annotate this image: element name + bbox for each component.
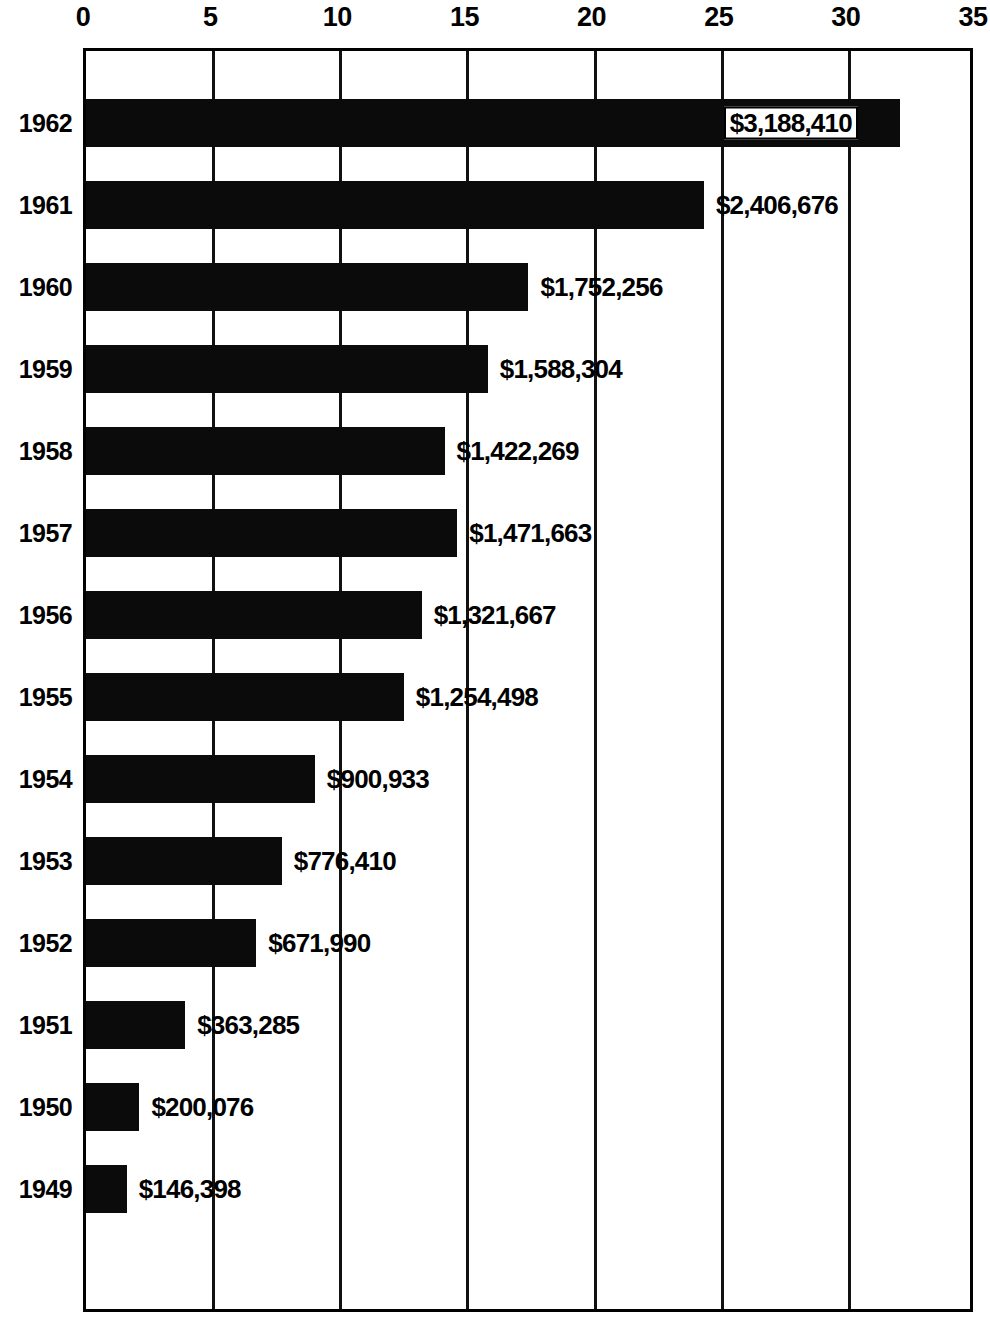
x-tick-label: 15 [450, 4, 479, 31]
year-label-1952: 1952 [19, 931, 72, 956]
x-tick-label: 10 [323, 4, 352, 31]
bar-row: $1,422,269 [86, 427, 970, 475]
bar [86, 181, 704, 229]
x-tick-label: 30 [831, 4, 860, 31]
bar-row: $363,285 [86, 1001, 970, 1049]
bar [86, 837, 282, 885]
x-tick-label: 20 [577, 4, 606, 31]
year-label-1954: 1954 [19, 767, 72, 792]
bar-row: $1,471,663 [86, 509, 970, 557]
bar-value-label: $671,990 [256, 930, 370, 956]
year-label-1955: 1955 [19, 685, 72, 710]
year-label-1958: 1958 [19, 439, 72, 464]
bar-value-label: $1,254,498 [404, 684, 538, 710]
year-label-1962: 1962 [19, 111, 72, 136]
bar [86, 919, 256, 967]
year-label-1960: 1960 [19, 275, 72, 300]
year-label-1959: 1959 [19, 357, 72, 382]
bar-value-label: $1,471,663 [457, 520, 591, 546]
bar [86, 1001, 185, 1049]
bar-value-label: $146,398 [127, 1176, 241, 1202]
bar-row: $2,406,676 [86, 181, 970, 229]
bar [86, 345, 488, 393]
bar [86, 1083, 139, 1131]
bar-value-label: $3,188,410 [724, 107, 858, 140]
bar-row: $3,188,410 [86, 99, 970, 147]
bar-value-label: $2,406,676 [704, 192, 838, 218]
bar [86, 509, 457, 557]
year-label-1961: 1961 [19, 193, 72, 218]
bar-value-label: $1,752,256 [528, 274, 662, 300]
bar [86, 427, 445, 475]
bar [86, 1165, 127, 1213]
year-label-1950: 1950 [19, 1095, 72, 1120]
bar-row: $1,321,667 [86, 591, 970, 639]
bar [86, 591, 422, 639]
bar-row: $1,752,256 [86, 263, 970, 311]
year-label-1951: 1951 [19, 1013, 72, 1038]
bar-value-label: $1,588,304 [488, 356, 622, 382]
bar-row: $776,410 [86, 837, 970, 885]
year-label-1953: 1953 [19, 849, 72, 874]
bar [86, 263, 528, 311]
year-label-1957: 1957 [19, 521, 72, 546]
bar-row: $1,588,304 [86, 345, 970, 393]
bar-row: $200,076 [86, 1083, 970, 1131]
x-tick-label: 0 [76, 4, 91, 31]
bar-value-label: $776,410 [282, 848, 396, 874]
bar-value-label: $900,933 [315, 766, 429, 792]
year-label-1956: 1956 [19, 603, 72, 628]
bar-value-label: $1,422,269 [445, 438, 579, 464]
bar-chart: 05101520253035 $3,188,410$2,406,676$1,75… [0, 0, 990, 1344]
bar-value-label: $1,321,667 [422, 602, 556, 628]
bar-row: $1,254,498 [86, 673, 970, 721]
plot-area: $3,188,410$2,406,676$1,752,256$1,588,304… [83, 48, 973, 1312]
bar-value-label: $363,285 [185, 1012, 299, 1038]
x-tick-label: 5 [203, 4, 218, 31]
year-label-1949: 1949 [19, 1177, 72, 1202]
x-tick-label: 35 [958, 4, 987, 31]
bar [86, 673, 404, 721]
bar-row: $671,990 [86, 919, 970, 967]
bar [86, 755, 315, 803]
bar-value-label: $200,076 [139, 1094, 253, 1120]
x-tick-label: 25 [704, 4, 733, 31]
bar-row: $900,933 [86, 755, 970, 803]
bar-row: $146,398 [86, 1165, 970, 1213]
